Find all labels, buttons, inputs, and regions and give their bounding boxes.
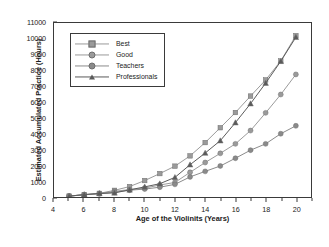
x-tick-mark xyxy=(113,198,114,202)
x-tick-label: 20 xyxy=(293,205,301,214)
data-point-marker xyxy=(203,160,208,165)
x-tick-label: 4 xyxy=(51,205,55,214)
legend-item-professionals[interactable]: Professionals xyxy=(75,71,157,82)
x-tick-mark xyxy=(53,198,54,202)
legend-marker-triangle xyxy=(89,74,95,79)
x-tick-mark xyxy=(220,198,221,201)
legend-item-teachers[interactable]: Teachers xyxy=(75,60,157,71)
legend-label: Teachers xyxy=(109,62,144,69)
x-tick-mark xyxy=(235,198,236,202)
data-point-marker xyxy=(218,125,223,130)
x-tick-label: 14 xyxy=(201,205,209,214)
data-point-marker xyxy=(188,154,193,159)
plot-frame: BestGoodTeachersProfessionals xyxy=(53,22,312,198)
x-tick-mark xyxy=(159,198,160,201)
x-tick-mark xyxy=(296,198,297,202)
x-tick-mark xyxy=(129,198,130,201)
chart-legend: BestGoodTeachersProfessionals xyxy=(70,33,165,87)
data-point-marker xyxy=(233,156,238,161)
data-point-marker xyxy=(188,174,193,179)
legend-item-best[interactable]: Best xyxy=(75,38,157,49)
legend-sample xyxy=(75,60,109,71)
x-tick-mark xyxy=(68,198,69,201)
y-tick-label: 0 xyxy=(42,194,46,203)
y-tick-label: 7000 xyxy=(30,82,46,91)
x-tick-mark xyxy=(98,198,99,201)
series-good xyxy=(67,72,299,197)
x-tick-mark xyxy=(144,198,145,202)
y-tick-label: 1000 xyxy=(30,178,46,187)
y-tick-label: 3000 xyxy=(30,146,46,155)
data-point-marker xyxy=(203,140,208,145)
y-tick-label: 4000 xyxy=(30,130,46,139)
x-tick-mark xyxy=(281,198,282,201)
data-point-marker xyxy=(172,182,177,187)
legend-marker-circle xyxy=(89,51,96,58)
line-chart: Estimated Accumulated Practice (Hours) 0… xyxy=(0,0,329,247)
data-point-marker xyxy=(248,128,253,133)
x-tick-mark xyxy=(174,198,175,202)
x-tick-label: 6 xyxy=(81,205,85,214)
data-point-marker xyxy=(278,131,283,136)
y-tick-label: 9000 xyxy=(30,50,46,59)
data-point-marker xyxy=(173,164,178,169)
data-point-marker xyxy=(293,72,298,77)
x-tick-mark xyxy=(205,198,206,202)
y-tick-label: 8000 xyxy=(30,66,46,75)
data-point-marker xyxy=(218,151,223,156)
data-point-marker xyxy=(248,94,253,99)
legend-item-good[interactable]: Good xyxy=(75,49,157,60)
data-point-marker xyxy=(233,141,238,146)
x-tick-label: 16 xyxy=(232,205,240,214)
x-axis-ticks: 468101214161820 xyxy=(53,198,312,214)
y-tick-label: 6000 xyxy=(30,98,46,107)
data-point-marker xyxy=(203,169,208,174)
y-tick-label: 11000 xyxy=(27,18,46,27)
legend-label: Professionals xyxy=(109,73,157,80)
x-tick-label: 8 xyxy=(112,205,116,214)
data-point-marker xyxy=(218,164,223,169)
data-point-marker xyxy=(293,123,298,128)
x-tick-label: 18 xyxy=(262,205,270,214)
data-point-marker xyxy=(142,178,147,183)
x-tick-label: 10 xyxy=(140,205,148,214)
series-teachers xyxy=(67,123,299,197)
data-point-marker xyxy=(248,148,253,153)
x-tick-mark xyxy=(190,198,191,201)
legend-label: Best xyxy=(109,40,130,47)
x-tick-mark xyxy=(266,198,267,202)
x-tick-mark xyxy=(83,198,84,202)
legend-marker-circle xyxy=(89,62,96,69)
y-tick-label: 2000 xyxy=(30,162,46,171)
y-axis-ticks: 0100020003000400050006000700080009000100… xyxy=(0,22,53,198)
data-point-marker xyxy=(233,110,238,115)
legend-sample xyxy=(75,38,109,49)
data-point-marker xyxy=(158,171,163,176)
data-point-marker xyxy=(278,92,283,97)
data-point-marker xyxy=(263,141,268,146)
x-tick-mark xyxy=(251,198,252,201)
series-line xyxy=(69,74,296,196)
data-point-marker xyxy=(263,110,268,115)
x-tick-label: 12 xyxy=(171,205,179,214)
x-axis-title: Age of the Violinits (Years) xyxy=(53,214,312,223)
y-tick-label: 10000 xyxy=(27,34,47,43)
legend-sample xyxy=(75,49,109,60)
y-tick-label: 5000 xyxy=(30,114,46,123)
legend-marker-square xyxy=(89,40,96,47)
legend-label: Good xyxy=(109,51,133,58)
data-point-marker xyxy=(188,170,193,175)
legend-sample xyxy=(75,71,109,82)
x-tick-mark xyxy=(312,198,313,201)
